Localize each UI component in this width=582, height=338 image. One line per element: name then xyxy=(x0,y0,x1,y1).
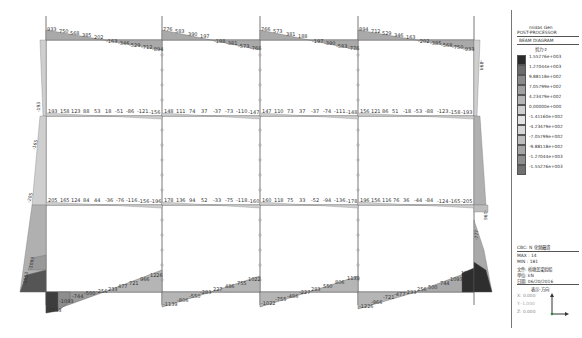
value-label: 755 xyxy=(237,280,247,286)
min-label: MIN : 181 xyxy=(517,259,538,264)
load-case-label: CBC: N 化频最清 xyxy=(517,244,550,250)
value-label: -486 xyxy=(287,293,298,299)
value-label: 529 xyxy=(382,30,392,36)
value-label: -158 xyxy=(449,109,460,115)
scale-swatch xyxy=(517,165,526,175)
quantity-label: 剪力-z xyxy=(535,46,547,52)
value-label: -111 xyxy=(334,108,345,114)
value-label: -196 xyxy=(150,198,161,204)
scale-value: -1.27044e+003 xyxy=(529,154,563,159)
value-label: 1139 xyxy=(347,275,360,281)
value-label: -1553 xyxy=(47,307,62,313)
value-label: 806 xyxy=(335,279,345,285)
value-label: -233 xyxy=(405,289,416,295)
scale-swatch xyxy=(517,115,526,125)
value-label: 568 xyxy=(70,30,80,36)
value-label: 110 xyxy=(274,108,284,114)
value-label: -385 xyxy=(430,40,441,46)
value-label: 1553 xyxy=(461,270,474,276)
value-label: 76 xyxy=(393,197,399,203)
scale-swatch xyxy=(517,135,526,145)
value-label: -197 xyxy=(312,38,323,44)
value-label: 721 xyxy=(129,280,139,286)
value-label: -894 xyxy=(152,46,163,52)
value-label: 233 xyxy=(108,286,118,292)
value-label: 573 xyxy=(273,28,283,34)
value-label: -256 xyxy=(96,288,107,294)
value-label: -381 xyxy=(226,40,237,46)
value-label: -165 xyxy=(449,198,460,204)
value-label: -73 xyxy=(225,108,233,114)
value-label: 163 xyxy=(406,34,416,40)
value-label: 147 xyxy=(262,108,272,114)
value-label: -116 xyxy=(126,197,137,203)
value-label: -18 xyxy=(403,108,411,114)
value-label: 160 xyxy=(262,197,272,203)
value-label: 744 xyxy=(440,280,450,286)
value-label: 75 xyxy=(287,197,293,203)
value-label: -88 xyxy=(425,108,433,114)
value-label: 486 xyxy=(225,283,235,289)
value-label: 156 xyxy=(360,108,370,114)
value-label: -202 xyxy=(418,38,429,44)
value-label: -193 xyxy=(36,102,41,112)
value-label: -1022 xyxy=(261,300,276,306)
value-label: -124 xyxy=(437,198,448,204)
value-label: 966 xyxy=(140,276,150,282)
value-label: -744 xyxy=(72,293,83,299)
value-label: -193 xyxy=(461,109,472,115)
legend-rule xyxy=(517,251,579,252)
value-label: -76 xyxy=(116,197,124,203)
value-label: -777 xyxy=(474,230,479,240)
value-label: 1226 xyxy=(150,272,163,278)
legend-divider xyxy=(511,10,512,328)
value-label: -160 xyxy=(248,198,259,204)
value-label: 750 xyxy=(59,28,69,34)
value-label: 94 xyxy=(189,197,195,203)
scale-value: 7.05799e+002 xyxy=(529,84,561,89)
value-label: -550 xyxy=(189,293,200,299)
value-label: 385 xyxy=(82,32,92,38)
scale-swatch xyxy=(517,95,526,105)
value-label: -156 xyxy=(138,198,149,204)
axis-triad-icon xyxy=(547,292,571,318)
value-label: -33 xyxy=(213,197,221,203)
value-label: -806 xyxy=(177,297,188,303)
value-label: -51 xyxy=(115,108,123,114)
value-label: 123 xyxy=(71,108,81,114)
value-label: -750 xyxy=(452,44,463,50)
value-label: 51 xyxy=(392,108,398,114)
value-label: -118 xyxy=(236,197,247,203)
value-label: -156 xyxy=(149,109,160,115)
value-label: -110 xyxy=(236,108,247,114)
value-label: 111 xyxy=(176,108,186,114)
value-label: 583 xyxy=(175,28,185,34)
legend-panel: midas Gen POST-PROCESSOR BEAM DIAGRAM 剪力… xyxy=(505,0,582,338)
value-label: 53 xyxy=(94,108,100,114)
value-label: 776 xyxy=(163,26,173,32)
value-label: -721 xyxy=(383,294,394,300)
value-label: 121 xyxy=(371,108,381,114)
column-value-labels: -193 -165 -205 -1553 -1093 -894 -196 -77… xyxy=(22,60,488,285)
value-label: -148 xyxy=(346,109,357,115)
scale-value: -9.88118e+002 xyxy=(529,144,563,149)
max-label: MAX : 14 xyxy=(517,253,537,258)
value-label: 283 xyxy=(311,286,321,292)
value-label: -283 xyxy=(200,289,211,295)
value-label: -712 xyxy=(141,44,152,50)
value-label: 202 xyxy=(94,34,104,40)
value-label: -188 xyxy=(214,38,225,44)
value-label: 390 xyxy=(188,31,198,37)
value-label: -776 xyxy=(348,45,359,51)
value-label: -147 xyxy=(248,109,259,115)
scale-value: 9.88118e+002 xyxy=(529,74,561,79)
value-label: 205 xyxy=(48,197,58,203)
module-name: POST-PROCESSOR xyxy=(517,30,557,35)
value-label: -44 xyxy=(414,197,422,203)
value-label: -933 xyxy=(463,46,474,52)
value-label: -86 xyxy=(126,108,134,114)
z-direction: Z: 0.000 xyxy=(517,309,535,314)
value-label: 118 xyxy=(274,197,284,203)
value-label: -573 xyxy=(238,43,249,49)
value-label: -529 xyxy=(129,42,140,48)
